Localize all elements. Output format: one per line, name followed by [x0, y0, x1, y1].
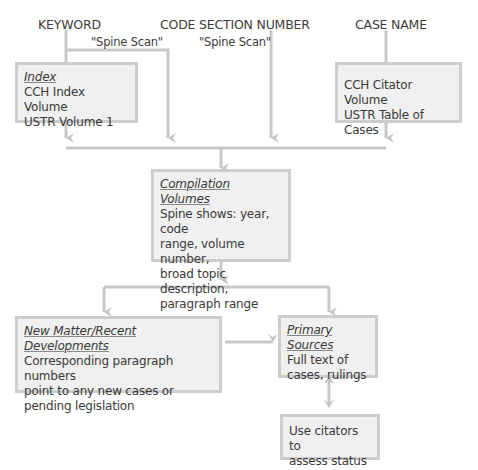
- compilation-box-line: paragraph range: [160, 297, 282, 312]
- index-box-line: CCH Index Volume: [24, 85, 129, 115]
- new-matter-box-line: Corresponding paragraph numbers: [24, 354, 213, 384]
- primary-sources-box: Primary Sources Full text of cases, ruli…: [278, 315, 378, 378]
- source-code-section-number: CODE SECTION NUMBER: [160, 17, 310, 32]
- primary-box-title: Primary Sources: [287, 323, 369, 353]
- spine-scan-label-center: "Spine Scan": [199, 35, 271, 49]
- primary-box-line: Full text of: [287, 353, 369, 368]
- new-matter-box-line: point to any new cases or: [24, 384, 213, 399]
- source-case-name: CASE NAME: [355, 17, 427, 32]
- compilation-box-line: Spine shows: year, code: [160, 207, 282, 237]
- index-box: Index CCH Index Volume USTR Volume 1: [15, 62, 138, 123]
- compilation-volumes-box: Compilation Volumes Spine shows: year, c…: [151, 169, 291, 262]
- index-box-title: Index: [24, 70, 129, 85]
- new-matter-box-title: New Matter/Recent Developments: [24, 324, 213, 354]
- primary-box-line: cases, rulings: [287, 368, 369, 383]
- compilation-box-line: broad topic description,: [160, 267, 282, 297]
- new-matter-box-line: pending legislation: [24, 399, 213, 414]
- citator-box-line: CCH Citator Volume: [344, 78, 453, 108]
- index-box-line: USTR Volume 1: [24, 115, 129, 130]
- use-citators-box: Use citators to assess status: [280, 414, 380, 460]
- new-matter-box: New Matter/Recent Developments Correspon…: [15, 316, 222, 393]
- citator-volume-box: CCH Citator Volume USTR Table of Cases: [335, 62, 462, 123]
- citators-box-line: Use citators to: [289, 424, 371, 454]
- citators-box-line: assess status: [289, 454, 371, 469]
- citator-box-line: USTR Table of Cases: [344, 108, 453, 138]
- source-keyword: KEYWORD: [38, 17, 101, 32]
- spine-scan-label-left: "Spine Scan": [91, 35, 163, 49]
- compilation-box-title: Compilation Volumes: [160, 177, 282, 207]
- compilation-box-line: range, volume number,: [160, 237, 282, 267]
